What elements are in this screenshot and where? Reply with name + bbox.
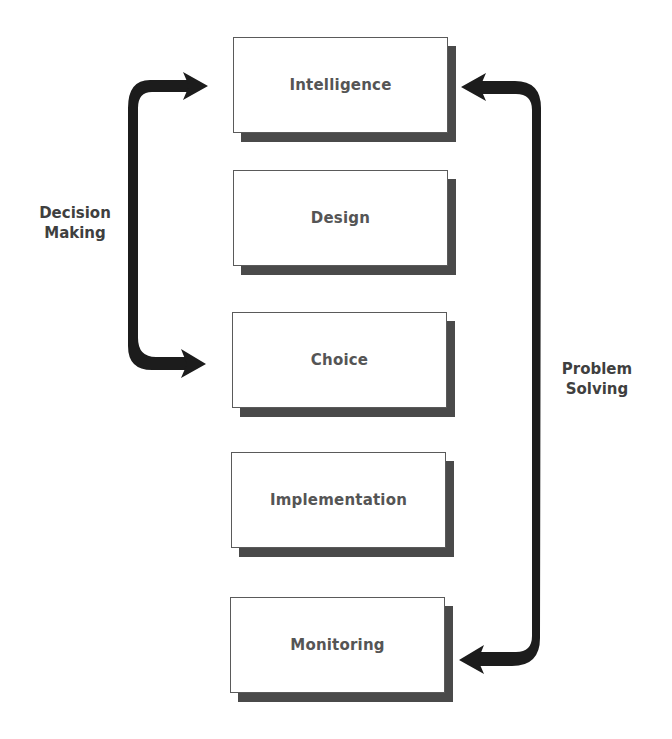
decision-making-label: Decision Making (32, 203, 118, 243)
stage-monitoring: Monitoring (230, 597, 445, 693)
stage-box: Intelligence (233, 37, 448, 133)
stage-label: Implementation (270, 491, 407, 509)
problem-solving-bracket-arrow (459, 73, 541, 674)
problem-solving-label-line2: Solving (552, 379, 642, 399)
stage-intelligence: Intelligence (233, 37, 448, 133)
problem-solving-label-line1: Problem (552, 359, 642, 379)
stage-choice: Choice (232, 312, 447, 408)
stage-box: Choice (232, 312, 447, 408)
stage-box: Implementation (231, 452, 446, 548)
stage-design: Design (233, 170, 448, 266)
decision-making-bracket-arrow (128, 72, 208, 378)
decision-making-label-line1: Decision (32, 203, 118, 223)
stage-label: Design (311, 209, 370, 227)
stage-box: Design (233, 170, 448, 266)
stage-label: Monitoring (290, 636, 384, 654)
stage-box: Monitoring (230, 597, 445, 693)
decision-process-diagram: Decision Making Problem Solving Intellig… (0, 0, 672, 739)
stage-implementation: Implementation (231, 452, 446, 548)
stage-label: Choice (311, 351, 368, 369)
stage-label: Intelligence (289, 76, 391, 94)
decision-making-label-line2: Making (32, 223, 118, 243)
problem-solving-label: Problem Solving (552, 359, 642, 399)
